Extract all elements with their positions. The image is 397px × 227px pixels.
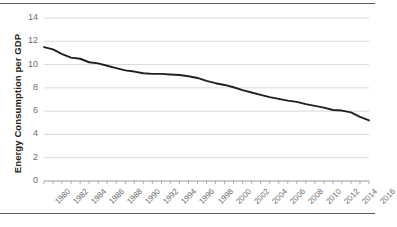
figure-bottom-border [0, 213, 375, 214]
data-series-line [44, 47, 369, 120]
line-chart-svg [0, 6, 375, 211]
gridlines [44, 18, 369, 181]
figure-top-border [0, 3, 375, 4]
y-tick-label: 0 [16, 175, 38, 185]
y-tick-label: 8 [16, 82, 38, 92]
plot-area: Energy Consumption per GDP 02468101214 1… [0, 6, 375, 211]
y-tick-label: 12 [16, 35, 38, 45]
y-tick-label: 4 [16, 128, 38, 138]
y-tick-label: 6 [16, 105, 38, 115]
y-tick-label: 14 [16, 12, 38, 22]
y-tick-label: 10 [16, 59, 38, 69]
x-tick-label: 2016 [378, 187, 397, 206]
y-tick-label: 2 [16, 152, 38, 162]
